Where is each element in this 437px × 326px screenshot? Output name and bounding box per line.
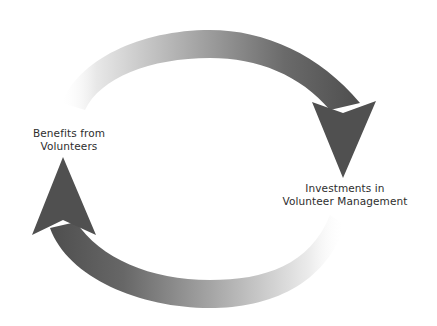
benefits-line-1: Benefits from bbox=[14, 127, 124, 140]
arrow-benefits-to-investments bbox=[62, 30, 376, 178]
node-label-benefits: Benefits from Volunteers bbox=[14, 127, 124, 153]
arrow-investments-to-benefits bbox=[32, 157, 345, 308]
top-arc-body bbox=[62, 30, 360, 110]
arrowhead-up-icon bbox=[32, 157, 96, 235]
bottom-arc-body bbox=[50, 215, 345, 308]
node-label-investments: Investments in Volunteer Management bbox=[270, 182, 420, 208]
benefits-line-2: Volunteers bbox=[14, 140, 124, 153]
investments-line-2: Volunteer Management bbox=[270, 195, 420, 208]
cycle-diagram bbox=[0, 0, 437, 326]
arrowhead-down-icon bbox=[312, 101, 376, 178]
investments-line-1: Investments in bbox=[270, 182, 420, 195]
